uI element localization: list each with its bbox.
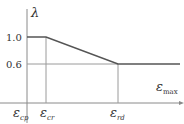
x-tick-eps-rd: εrd: [110, 105, 125, 122]
y-tick-0-6: 0.6: [6, 59, 22, 70]
lambda-curve: [27, 37, 180, 64]
y-tick-1-0: 1.0: [6, 32, 22, 43]
x-axis-label: εmax: [156, 79, 178, 96]
x-axis-arrow-icon: [179, 101, 184, 105]
x-tick-eps-cr: εcr: [40, 105, 55, 122]
lambda-strain-diagram: λ 1.0 0.6 εmax εcp εcr εrd: [0, 0, 184, 124]
y-axis-label: λ: [30, 5, 39, 20]
